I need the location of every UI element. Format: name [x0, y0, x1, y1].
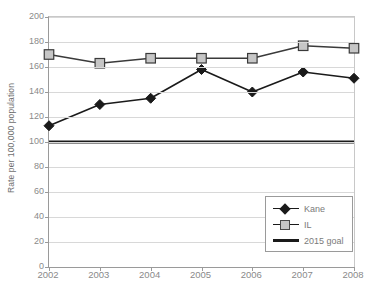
y-axis-tick-100: 100	[18, 137, 44, 146]
gridline	[49, 42, 354, 43]
square-marker-icon	[271, 218, 301, 232]
gridline	[49, 117, 354, 118]
y-tick-mark	[45, 192, 49, 193]
gridline	[49, 92, 354, 93]
legend-label-kane: Kane	[301, 204, 325, 214]
thick-line-icon	[271, 234, 301, 248]
data-point-marker[interactable]	[298, 67, 308, 77]
y-tick-mark	[45, 117, 49, 118]
gridline	[49, 17, 354, 18]
y-axis-tick-200: 200	[18, 12, 44, 21]
x-axis-tick-2006: 2006	[241, 270, 262, 280]
data-point-marker[interactable]	[248, 54, 257, 64]
y-axis-tick-labels: 020406080100120140160180200	[18, 0, 44, 295]
legend-label-goal: 2015 goal	[301, 236, 344, 246]
data-point-marker[interactable]	[349, 44, 359, 54]
data-point-marker[interactable]	[44, 121, 54, 131]
legend-item-il[interactable]: IL	[271, 217, 347, 233]
legend-label-il: IL	[301, 220, 312, 230]
data-point-marker[interactable]	[349, 73, 359, 83]
y-tick-mark	[45, 67, 49, 68]
y-tick-mark	[45, 242, 49, 243]
data-point-marker[interactable]	[44, 50, 54, 60]
y-axis-tick-40: 40	[18, 212, 44, 221]
gridline	[49, 167, 354, 168]
y-axis-tick-140: 140	[18, 87, 44, 96]
y-axis-tick-20: 20	[18, 237, 44, 246]
x-axis-tick-2007: 2007	[292, 270, 313, 280]
gridline	[49, 192, 354, 193]
y-tick-mark	[45, 167, 49, 168]
y-axis-tick-60: 60	[18, 187, 44, 196]
y-axis-tick-120: 120	[18, 112, 44, 121]
diamond-marker-icon	[271, 202, 301, 216]
data-point-marker[interactable]	[95, 100, 105, 110]
data-point-marker[interactable]	[146, 93, 156, 103]
data-point-marker[interactable]	[197, 65, 207, 75]
x-axis-tick-2003: 2003	[88, 270, 109, 280]
y-axis-tick-180: 180	[18, 37, 44, 46]
chart-container: Rate per 100,000 population 020406080100…	[0, 0, 375, 295]
y-axis-tick-80: 80	[18, 162, 44, 171]
gridline	[49, 67, 354, 68]
x-axis-tick-2008: 2008	[342, 270, 363, 280]
chart-legend: Kane IL 2015 goal	[265, 196, 353, 252]
y-tick-mark	[45, 217, 49, 218]
y-axis-tick-160: 160	[18, 62, 44, 71]
y-tick-mark	[45, 42, 49, 43]
legend-item-kane[interactable]: Kane	[271, 201, 347, 217]
y-tick-mark	[45, 92, 49, 93]
x-axis-tick-labels: 2002200320042005200620072008	[48, 270, 353, 286]
x-axis-tick-2002: 2002	[37, 270, 58, 280]
legend-item-goal[interactable]: 2015 goal	[271, 233, 347, 249]
x-axis-tick-2004: 2004	[139, 270, 160, 280]
y-tick-mark	[45, 17, 49, 18]
data-point-marker[interactable]	[146, 54, 156, 64]
series-kane	[44, 65, 359, 131]
y-axis-title-text: Rate per 100,000 population	[6, 83, 16, 193]
data-point-marker[interactable]	[197, 54, 207, 64]
y-tick-mark	[45, 142, 49, 143]
x-axis-tick-2005: 2005	[190, 270, 211, 280]
gridline	[49, 142, 354, 143]
